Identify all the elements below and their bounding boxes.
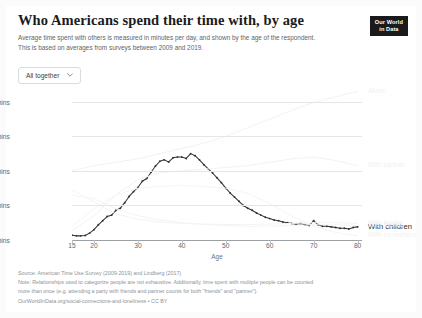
series-label-with-co-workers: With co-workers: [368, 232, 417, 239]
owid-logo: Our World in Data: [370, 16, 408, 36]
y-axis-tick-label: 100 mins: [0, 202, 10, 209]
series-point: [357, 226, 359, 228]
all-together-dropdown[interactable]: All together: [18, 67, 81, 84]
series-point: [269, 218, 271, 220]
series-point: [102, 220, 104, 222]
series-point: [194, 155, 196, 157]
series-point: [348, 228, 350, 230]
series-point: [181, 156, 183, 158]
x-axis-tick-label: 80: [354, 242, 361, 249]
series-point: [84, 235, 86, 237]
series-point: [89, 232, 91, 234]
series-point: [260, 214, 262, 216]
chart-controls: All together: [18, 64, 81, 84]
series-point: [128, 196, 130, 198]
series-point: [282, 221, 284, 223]
footer-link-row: OurWorldInData.org/social-connections-an…: [18, 297, 406, 306]
series-point: [159, 160, 161, 162]
series-point: [278, 220, 280, 222]
series-point: [343, 227, 345, 229]
x-axis-tick-mark: [270, 240, 271, 243]
series-point: [190, 153, 192, 155]
x-axis-tick-label: 70: [310, 242, 317, 249]
series-point: [330, 226, 332, 228]
series-point: [80, 235, 82, 237]
gridline: [72, 171, 362, 172]
series-point: [124, 202, 126, 204]
x-axis-tick-label: 15: [68, 242, 75, 249]
series-point: [97, 224, 99, 226]
series-point: [111, 214, 113, 216]
series-point: [256, 212, 258, 214]
footer-url[interactable]: OurWorldInData.org/social-connections-an…: [18, 298, 146, 304]
series-line: [72, 91, 358, 170]
owid-logo-line2: in Data: [375, 26, 403, 33]
x-axis-tick-mark: [182, 240, 183, 243]
series-point: [352, 227, 354, 229]
series-point: [251, 209, 253, 211]
gridline: [72, 136, 362, 137]
x-axis-tick-label: 20: [90, 242, 97, 249]
x-axis-tick-label: 40: [178, 242, 185, 249]
plot-region: 0 mins100 mins200 mins300 mins400 mins15…: [72, 88, 362, 240]
series-point: [339, 227, 341, 229]
owid-logo-line1: Our World: [375, 19, 403, 26]
series-point: [163, 159, 165, 161]
series-point: [141, 180, 143, 182]
page-title: Who Americans spend their time with, by …: [18, 12, 410, 29]
series-line: [72, 157, 358, 230]
series-point: [168, 161, 170, 163]
series-label-with-family: With family: [368, 220, 401, 227]
series-lines: [72, 88, 362, 240]
series-point: [177, 156, 179, 158]
series-point: [247, 207, 249, 209]
series-point: [212, 172, 214, 174]
footer-separator: •: [148, 298, 150, 304]
footer-note-line2: more than once (e.g. attending a party w…: [18, 287, 406, 296]
y-axis-tick-label: 0 mins: [0, 237, 10, 244]
series-label-with-partner: With partner: [368, 162, 405, 169]
series-point: [203, 164, 205, 166]
series-point: [238, 200, 240, 202]
series-point: [220, 182, 222, 184]
y-axis-tick-label: 400 mins: [0, 98, 10, 105]
series-point: [234, 196, 236, 198]
series-point: [264, 216, 266, 218]
x-axis-tick-label: 30: [134, 242, 141, 249]
chart-subtitle: Average time spent with others is measur…: [18, 33, 318, 54]
series-point: [322, 225, 324, 227]
series-point: [106, 216, 108, 218]
series-point: [198, 159, 200, 161]
series-point: [216, 177, 218, 179]
x-axis-tick-mark: [314, 240, 315, 243]
x-axis-tick-mark: [94, 240, 95, 243]
x-axis-tick-mark: [72, 240, 73, 243]
y-axis-tick-label: 300 mins: [0, 133, 10, 140]
series-point: [273, 219, 275, 221]
x-axis-tick-mark: [138, 240, 139, 243]
series-point: [146, 178, 148, 180]
series-point: [155, 165, 157, 167]
footer-source: Source: American Time Use Survey (2009-2…: [18, 269, 406, 278]
series-point: [93, 229, 95, 231]
footer-license[interactable]: CC BY: [151, 298, 167, 304]
series-point: [313, 220, 315, 222]
series-point: [326, 225, 328, 227]
gridline: [72, 205, 362, 206]
gridline: [72, 102, 362, 103]
series-point: [185, 158, 187, 160]
x-axis-tick-label: 50: [222, 242, 229, 249]
footer-note-line1: Note: Relationships used to categorize p…: [18, 278, 406, 287]
series-line: [72, 185, 358, 235]
chart-page: Who Americans spend their time with, by …: [0, 0, 422, 318]
series-point: [229, 192, 231, 194]
series-label-alone: Alone: [368, 88, 385, 95]
series-point: [72, 234, 73, 236]
x-axis-tick-mark: [358, 240, 359, 243]
gridline: [72, 240, 362, 241]
series-point: [133, 191, 135, 193]
chart-area: 0 mins100 mins200 mins300 mins400 mins15…: [14, 88, 420, 258]
x-axis-title: Age: [211, 253, 222, 260]
chart-frame: Who Americans spend their time with, by …: [6, 6, 416, 312]
chart-header: Who Americans spend their time with, by …: [18, 12, 410, 54]
